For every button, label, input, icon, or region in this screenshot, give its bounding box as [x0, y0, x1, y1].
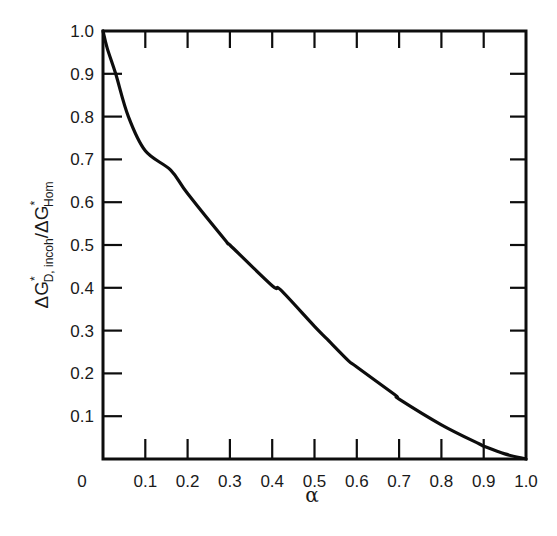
- x-tick-label: 0.2: [176, 472, 200, 491]
- plot-frame: [103, 31, 526, 459]
- x-axis-title: α: [305, 483, 319, 507]
- x-tick-label: 1.0: [514, 472, 538, 491]
- x-tick-label: 0.9: [472, 472, 496, 491]
- y-tick-label: 0.1: [70, 407, 94, 426]
- plot-border: [103, 31, 526, 459]
- y-tick-label: 1.0: [70, 22, 94, 41]
- y-tick-label: 0.7: [70, 150, 94, 169]
- y-tick-label: 0.3: [70, 322, 94, 341]
- x-tick-label: 0.7: [387, 472, 411, 491]
- y-tick-label: 0.5: [70, 236, 94, 255]
- data-curve: [103, 31, 526, 459]
- x-axis-ticks: [145, 31, 483, 459]
- y-tick-label: 0.4: [70, 279, 94, 298]
- x-tick-label: 0.8: [430, 472, 454, 491]
- x-tick-label: 0: [77, 472, 86, 491]
- y-tick-label: 0.6: [70, 193, 94, 212]
- y-tick-label: 0.2: [70, 364, 94, 383]
- y-tick-label: 0.8: [70, 108, 94, 127]
- y-axis-tick-labels: 0.10.20.30.40.50.60.70.80.91.0: [70, 22, 94, 426]
- x-tick-label: 0.1: [133, 472, 157, 491]
- y-tick-label: 0.9: [70, 65, 94, 84]
- chart: 00.10.20.30.40.50.60.70.80.91.0 0.10.20.…: [0, 0, 557, 536]
- y-axis-ticks: [103, 74, 526, 416]
- x-tick-label: 0.4: [260, 472, 284, 491]
- svg-text:ΔG*D, incoh/ΔG*Hom: ΔG*D, incoh/ΔG*Hom: [28, 182, 56, 309]
- x-tick-label: 0.6: [345, 472, 369, 491]
- y-axis-title: ΔG*D, incoh/ΔG*Hom: [28, 182, 56, 309]
- x-tick-label: 0.3: [218, 472, 242, 491]
